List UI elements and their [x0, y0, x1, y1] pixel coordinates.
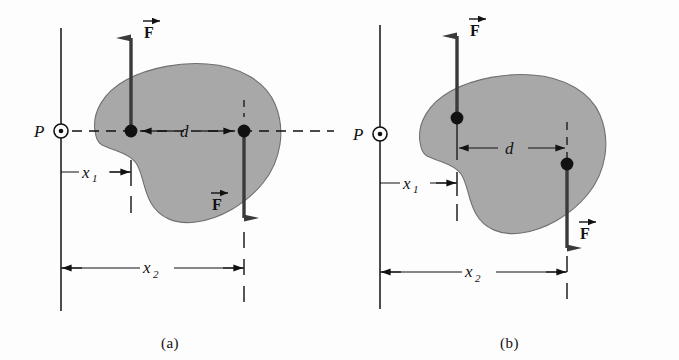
dimension-d-label: d [505, 139, 514, 158]
dimension-x2: x 2 [61, 232, 244, 303]
pivot-label-P: P [33, 122, 44, 141]
panel-b-drawing: P F F [340, 0, 679, 330]
force-down-label: F [579, 222, 596, 242]
application-point-dot [451, 112, 464, 125]
force-up-label-text: F [144, 24, 154, 41]
application-point-dot [238, 125, 251, 138]
dimension-x1-subscript: 1 [413, 183, 419, 195]
dimension-x1: x 1 [61, 160, 131, 213]
application-point-dot [125, 125, 138, 138]
panel-b: P F F [340, 0, 679, 360]
panel-a: P F F [0, 0, 340, 360]
panel-b-caption: (b) [340, 335, 679, 352]
dimension-x1-subscript: 1 [92, 172, 98, 184]
force-up-label: F [469, 19, 486, 39]
dimension-x2-label: x [142, 258, 151, 277]
dimension-x1: x 1 [380, 172, 457, 221]
dimension-x2: x 2 [380, 256, 567, 305]
application-point-dot [561, 158, 574, 171]
pivot-label-P: P [352, 125, 363, 144]
figure-canvas: P F F [0, 0, 679, 360]
dimension-x2-label: x [464, 262, 473, 281]
panel-a-caption: (a) [0, 335, 340, 352]
dot-in-circle-icon [373, 127, 387, 141]
dimension-x1-label: x [402, 174, 411, 193]
dot-in-circle-icon [54, 124, 68, 138]
force-up-label-text: F [470, 22, 480, 39]
force-down-label-text: F [212, 196, 222, 213]
panel-a-drawing: P F F [0, 0, 340, 330]
force-down-label-text: F [580, 225, 590, 242]
rigid-body-shape [95, 64, 281, 223]
dimension-x1-label: x [81, 163, 90, 182]
force-up-label: F [143, 21, 160, 41]
dimension-x2-subscript: 2 [153, 268, 159, 280]
dimension-d-label: d [180, 122, 189, 141]
dimension-x2-subscript: 2 [475, 272, 481, 284]
